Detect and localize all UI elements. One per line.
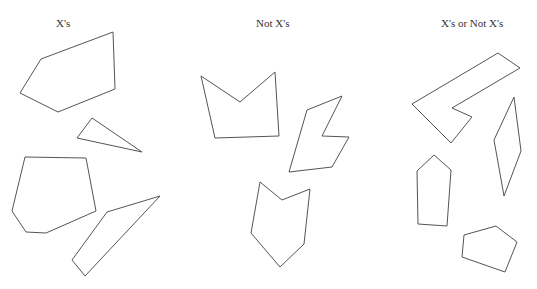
concept-diagram: X's Not X's X's or Not X's bbox=[0, 0, 537, 289]
group-xs bbox=[12, 32, 160, 276]
group-not-xs bbox=[201, 72, 349, 267]
long-quadrilateral bbox=[72, 196, 160, 276]
hexagon bbox=[12, 157, 96, 233]
thin-triangle bbox=[77, 118, 142, 152]
group-xs-or-not-xs bbox=[412, 53, 521, 272]
shapes-layer bbox=[0, 0, 537, 289]
kite-shape bbox=[494, 97, 521, 196]
pentagon-large bbox=[20, 32, 115, 112]
chevron-shape bbox=[251, 182, 310, 267]
pentagon-small bbox=[462, 226, 517, 272]
bolt-shape bbox=[289, 96, 349, 172]
crown-shape bbox=[201, 72, 279, 138]
l-shape bbox=[412, 53, 520, 143]
house-shape bbox=[417, 155, 451, 226]
